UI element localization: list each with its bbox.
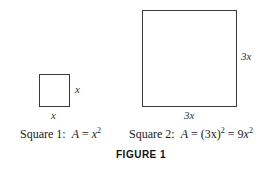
equals: = bbox=[82, 127, 89, 141]
square-2 bbox=[142, 10, 237, 107]
square-2-side-label: 3x bbox=[241, 51, 251, 62]
equals-2: = bbox=[228, 127, 235, 141]
area-paren-exp: 2 bbox=[221, 126, 225, 135]
square-1-side-label: x bbox=[75, 84, 80, 95]
caption-prefix: Square 1: bbox=[20, 127, 66, 141]
square-1 bbox=[39, 74, 70, 107]
square-2-caption: Square 2: A = (3x)2 = 9x2 bbox=[129, 128, 253, 140]
area-var: A bbox=[72, 127, 79, 141]
square-1-bottom-label: x bbox=[51, 110, 56, 121]
caption-prefix: Square 2: bbox=[129, 127, 175, 141]
area-exp: 2 bbox=[97, 126, 101, 135]
area-paren: (3x) bbox=[201, 127, 221, 141]
area-exp: 2 bbox=[249, 126, 253, 135]
figure-label: FIGURE 1 bbox=[116, 149, 166, 160]
square-2-bottom-label: 3x bbox=[184, 110, 194, 121]
area-var: A bbox=[181, 127, 188, 141]
equals: = bbox=[191, 127, 198, 141]
square-1-caption: Square 1: A = x2 bbox=[20, 128, 101, 140]
